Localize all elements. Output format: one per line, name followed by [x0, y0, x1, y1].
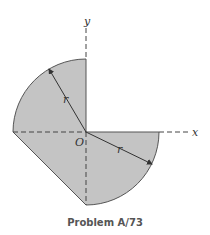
y-axis-label: y: [83, 15, 91, 28]
x-axis-label: x: [192, 126, 199, 139]
origin-label: O: [75, 136, 84, 149]
figure-caption: Problem A/73: [67, 217, 143, 228]
radius-label-upper: r: [63, 93, 69, 106]
figure-canvas: y x O r r Problem A/73: [0, 0, 210, 235]
radius-label-lower: r: [117, 143, 123, 156]
